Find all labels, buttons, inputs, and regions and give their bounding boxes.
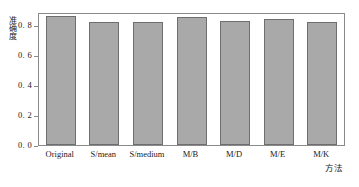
x-tick-label: M/E xyxy=(256,149,300,159)
y-tick-label: 0. 2 xyxy=(18,110,32,120)
bar xyxy=(220,21,250,145)
x-tick-label: M/D xyxy=(212,149,256,159)
y-tick-label: 0. 8 xyxy=(18,20,32,30)
chart-figure: 准确度 0. 0 0. 2 0. 4 0. 6 0. 8 OriginalS/m… xyxy=(0,0,359,187)
bars-layer xyxy=(39,14,344,145)
x-axis-title: 方法 xyxy=(325,161,343,173)
x-tick-label: M/K xyxy=(299,149,343,159)
y-tick-label: 0. 4 xyxy=(18,80,32,90)
x-tick-label: S/medium xyxy=(125,149,169,159)
y-tick-label: 0. 6 xyxy=(18,50,32,60)
bar xyxy=(89,22,119,145)
bar xyxy=(264,19,294,145)
y-axis: 0. 0 0. 2 0. 4 0. 6 0. 8 xyxy=(0,0,38,147)
bar xyxy=(177,17,207,145)
x-axis: OriginalS/meanS/mediumM/BM/DM/EM/K 方法 xyxy=(38,147,345,187)
x-tick-label: M/B xyxy=(169,149,213,159)
y-tick-label: 0. 0 xyxy=(18,140,32,150)
x-tick-label: Original xyxy=(38,149,82,159)
bar xyxy=(307,22,337,145)
bar xyxy=(133,22,163,145)
x-tick-label: S/mean xyxy=(82,149,126,159)
plot-area xyxy=(38,13,345,146)
bar xyxy=(46,16,76,145)
